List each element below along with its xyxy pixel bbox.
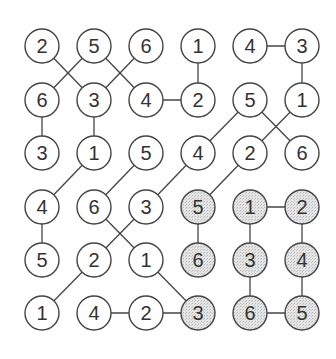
node-number: 3 — [192, 302, 203, 324]
number-node[interactable]: 3 — [129, 190, 163, 224]
number-node[interactable]: 2 — [25, 29, 59, 63]
number-node[interactable]: 4 — [233, 29, 267, 63]
node-number: 4 — [88, 302, 99, 324]
node-number: 3 — [88, 89, 99, 111]
shaded-number-node[interactable]: 6 — [233, 296, 267, 330]
number-node[interactable]: 6 — [25, 83, 59, 117]
shaded-number-node[interactable]: 3 — [233, 243, 267, 277]
node-number: 5 — [192, 196, 203, 218]
node-number: 4 — [192, 142, 203, 164]
node-number: 1 — [192, 35, 203, 57]
number-node[interactable]: 5 — [233, 83, 267, 117]
number-node[interactable]: 3 — [77, 83, 111, 117]
node-number: 6 — [36, 89, 47, 111]
number-node[interactable]: 3 — [25, 136, 59, 170]
node-number: 3 — [296, 35, 307, 57]
shaded-number-node[interactable]: 5 — [181, 190, 215, 224]
shaded-number-node[interactable]: 5 — [285, 296, 319, 330]
number-node[interactable]: 4 — [181, 136, 215, 170]
node-number: 5 — [140, 142, 151, 164]
number-node[interactable]: 6 — [129, 29, 163, 63]
number-node[interactable]: 5 — [129, 136, 163, 170]
node-number: 1 — [244, 196, 255, 218]
node-number: 1 — [296, 89, 307, 111]
number-node[interactable]: 4 — [129, 83, 163, 117]
node-number: 2 — [140, 302, 151, 324]
node-number: 6 — [192, 249, 203, 271]
number-node[interactable]: 1 — [77, 136, 111, 170]
connection-lines — [42, 46, 302, 313]
node-number: 6 — [140, 35, 151, 57]
number-node[interactable]: 6 — [285, 136, 319, 170]
number-node[interactable]: 2 — [129, 296, 163, 330]
number-node[interactable]: 4 — [77, 296, 111, 330]
node-number: 2 — [36, 35, 47, 57]
node-number: 1 — [36, 302, 47, 324]
node-number: 2 — [244, 142, 255, 164]
node-number: 3 — [140, 196, 151, 218]
node-number: 5 — [88, 35, 99, 57]
node-number: 6 — [88, 196, 99, 218]
number-node[interactable]: 1 — [25, 296, 59, 330]
node-number: 1 — [140, 249, 151, 271]
node-number: 2 — [88, 249, 99, 271]
node-number: 2 — [192, 89, 203, 111]
number-node[interactable]: 4 — [25, 190, 59, 224]
node-number: 5 — [296, 302, 307, 324]
number-node[interactable]: 3 — [285, 29, 319, 63]
node-number: 6 — [244, 302, 255, 324]
node-number: 4 — [244, 35, 255, 57]
number-node[interactable]: 2 — [181, 83, 215, 117]
shaded-number-node[interactable]: 6 — [181, 243, 215, 277]
node-number: 3 — [244, 249, 255, 271]
node-number: 1 — [88, 142, 99, 164]
node-number: 2 — [296, 196, 307, 218]
shaded-number-node[interactable]: 2 — [285, 190, 319, 224]
node-number: 6 — [296, 142, 307, 164]
node-number: 5 — [36, 249, 47, 271]
number-node[interactable]: 6 — [77, 190, 111, 224]
number-node[interactable]: 2 — [77, 243, 111, 277]
number-node[interactable]: 2 — [233, 136, 267, 170]
number-node[interactable]: 1 — [181, 29, 215, 63]
node-number: 4 — [296, 249, 307, 271]
number-node[interactable]: 1 — [285, 83, 319, 117]
node-number: 4 — [36, 196, 47, 218]
node-number: 3 — [36, 142, 47, 164]
shaded-number-node[interactable]: 1 — [233, 190, 267, 224]
shaded-number-node[interactable]: 3 — [181, 296, 215, 330]
node-number: 5 — [244, 89, 255, 111]
number-node[interactable]: 1 — [129, 243, 163, 277]
node-number: 4 — [140, 89, 151, 111]
number-node[interactable]: 5 — [77, 29, 111, 63]
number-node[interactable]: 5 — [25, 243, 59, 277]
shaded-number-node[interactable]: 4 — [285, 243, 319, 277]
puzzle-board: 256143634251315426463512521634142365 — [0, 0, 336, 359]
